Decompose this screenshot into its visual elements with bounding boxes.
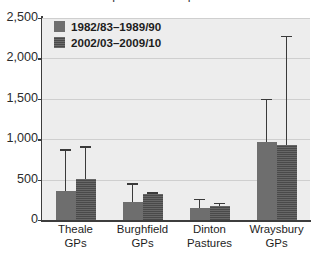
- y-tick-mark-500: [38, 180, 42, 181]
- error-cap-1-1: [60, 149, 71, 150]
- y-tick-mark-2000: [38, 58, 42, 59]
- error-cap-2-4: [281, 36, 292, 37]
- gridline-1000: [42, 139, 310, 140]
- gridline-2500: [42, 18, 310, 19]
- x-tick-label-3: DintonPastures: [176, 223, 243, 250]
- legend-label-series-2: 2002/03–2009/10: [71, 36, 161, 49]
- error-cap-1-4: [261, 99, 272, 100]
- legend-swatch-series-2: [54, 37, 65, 48]
- bar-2-3: [210, 206, 230, 220]
- x-tick-label-2: BurghfieldGPs: [109, 223, 176, 250]
- legend-label-series-1: 1982/83–1989/90: [71, 20, 161, 33]
- y-tick-mark-1000: [38, 139, 42, 140]
- legend-item-series-1: 1982/83–1989/90: [54, 20, 161, 33]
- y-tick-label-1000: 1,000: [0, 131, 38, 145]
- y-tick-label-0: 0: [0, 212, 38, 226]
- error-cap-2-2: [147, 192, 158, 193]
- legend-item-series-2: 2002/03–2009/10: [54, 36, 161, 49]
- error-cap-1-2: [127, 183, 138, 184]
- y-tick-mark-0: [38, 220, 42, 221]
- y-tick-label-1500: 1,500: [0, 91, 38, 105]
- x-tick-label-4: WraysburyGPs: [243, 223, 310, 250]
- bar-2-2: [143, 194, 163, 220]
- error-bar-1-1: [65, 149, 66, 191]
- y-tick-mark-2500: [38, 18, 42, 19]
- bar-2-1: [76, 179, 96, 220]
- x-tick-label-1: ThealeGPs: [42, 223, 109, 250]
- chart-title: reported in Annual Reports: [0, 0, 313, 2]
- x-axis-line: [41, 220, 311, 222]
- error-bar-1-2: [132, 183, 133, 202]
- y-tick-label-2500: 2,500: [0, 10, 38, 24]
- y-tick-label-2000: 2,000: [0, 50, 38, 64]
- bar-1-1: [56, 191, 76, 220]
- gridline-2000: [42, 58, 310, 59]
- x-axis-tick-labels: ThealeGPsBurghfieldGPsDintonPasturesWray…: [42, 223, 310, 256]
- error-cap-1-3: [194, 199, 205, 200]
- bar-1-2: [123, 202, 143, 220]
- error-cap-2-3: [214, 203, 225, 204]
- y-tick-label-500: 500: [0, 172, 38, 186]
- error-bar-1-3: [199, 199, 200, 208]
- legend: 1982/83–1989/90 2002/03–2009/10: [54, 20, 161, 49]
- error-bar-1-4: [266, 99, 267, 142]
- bar-chart: reported in Annual Reports 05001,0001,50…: [0, 0, 313, 256]
- bar-2-4: [277, 145, 297, 220]
- error-cap-2-1: [80, 146, 91, 147]
- bar-1-4: [257, 142, 277, 220]
- y-tick-mark-1500: [38, 99, 42, 100]
- bar-1-3: [190, 208, 210, 220]
- error-bar-2-4: [286, 36, 287, 145]
- legend-swatch-series-1: [54, 21, 65, 32]
- error-bar-2-1: [85, 146, 86, 178]
